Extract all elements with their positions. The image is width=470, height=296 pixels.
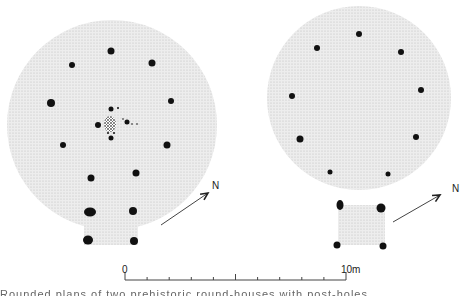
post-hole	[88, 175, 95, 182]
right-roundhouse	[267, 6, 451, 250]
north-arrow-icon	[393, 195, 440, 222]
stake-hole	[131, 123, 133, 125]
scale-bar	[125, 272, 346, 280]
stake-hole	[107, 132, 109, 134]
north-label-right: N	[452, 183, 459, 194]
porch-post-hole	[129, 207, 137, 215]
porch-post-hole	[380, 243, 387, 250]
post-hole	[164, 142, 171, 149]
post-hole	[413, 134, 419, 140]
post-hole	[125, 120, 130, 125]
post-hole	[297, 136, 304, 143]
stake-hole	[136, 123, 138, 125]
roundhouse-plan-diagram	[0, 0, 470, 296]
porch-post-hole	[130, 237, 138, 245]
post-hole	[289, 93, 295, 99]
stake-hole	[122, 118, 124, 120]
stake-hole	[117, 107, 119, 109]
scale-end-label: 10m	[341, 264, 360, 275]
left-roundhouse	[7, 20, 217, 245]
caption-fragment: Rounded plans of two prehistoric round-h…	[0, 288, 470, 296]
post-hole	[95, 122, 101, 128]
post-hole	[398, 49, 404, 55]
stake-hole	[113, 132, 115, 134]
post-hole	[60, 142, 66, 148]
porch-post-hole	[83, 236, 93, 245]
post-hole	[314, 45, 320, 51]
porch-post-hole	[84, 208, 96, 217]
post-hole	[133, 170, 140, 177]
post-hole	[386, 172, 391, 177]
post-hole	[69, 62, 75, 68]
scale-start-label: 0	[122, 264, 128, 275]
post-hole	[418, 87, 424, 93]
post-hole	[109, 136, 114, 141]
post-hole	[168, 98, 174, 104]
porch-post-hole	[377, 204, 386, 213]
post-hole	[356, 31, 362, 37]
post-hole	[149, 60, 156, 67]
porch-post-hole	[337, 200, 344, 210]
post-hole	[108, 48, 115, 55]
porch-post-hole	[334, 242, 341, 249]
hearth	[104, 116, 116, 132]
post-hole	[47, 99, 55, 107]
north-label-left: N	[212, 180, 219, 191]
post-hole	[328, 170, 333, 175]
post-hole	[109, 107, 114, 112]
